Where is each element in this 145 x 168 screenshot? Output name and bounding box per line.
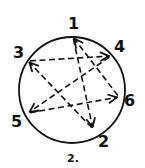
node-label-4: 4 bbox=[114, 37, 125, 56]
node-label-group: 143652 bbox=[11, 14, 135, 151]
edge-5-to-6 bbox=[30, 97, 117, 112]
node-label-2: 2 bbox=[98, 132, 109, 151]
edge-6-to-1 bbox=[74, 39, 118, 96]
node-label-1: 1 bbox=[68, 14, 79, 33]
edge-2-to-3 bbox=[29, 62, 91, 127]
node-label-6: 6 bbox=[124, 91, 135, 110]
outer-circle bbox=[19, 37, 125, 143]
edge-group bbox=[29, 39, 117, 128]
edge-1-to-2 bbox=[73, 39, 92, 127]
figure-caption: 2. bbox=[67, 152, 79, 165]
edge-3-to-4 bbox=[30, 56, 109, 61]
node-label-3: 3 bbox=[13, 43, 24, 62]
node-label-5: 5 bbox=[11, 112, 22, 131]
circle-tour-diagram: 143652 2. bbox=[0, 0, 145, 168]
